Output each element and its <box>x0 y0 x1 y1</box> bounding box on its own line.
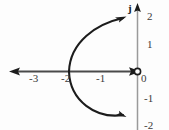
tick-label-origin: 0 <box>141 73 147 84</box>
nyquist-arc-path <box>69 18 123 116</box>
tick-label-real-minus2: -2 <box>61 73 70 84</box>
imaginary-axis <box>134 3 141 130</box>
tick-label-imag-1: 1 <box>147 39 153 50</box>
tick-label-real-minus3: -3 <box>29 73 38 84</box>
imaginary-axis-label: j <box>128 3 132 14</box>
tick-label-real-minus1: -1 <box>96 73 105 84</box>
tick-label-imag-minus2: -2 <box>144 120 153 130</box>
tick-label-imag-2: 2 <box>147 11 153 22</box>
tick-label-imag-minus1: -1 <box>144 93 153 104</box>
origin-marker <box>134 68 140 74</box>
plot-canvas <box>0 0 169 130</box>
nyquist-plot-figure: j -3 -2 -1 0 2 1 -1 -2 <box>0 0 169 130</box>
nyquist-curve <box>69 16 127 117</box>
